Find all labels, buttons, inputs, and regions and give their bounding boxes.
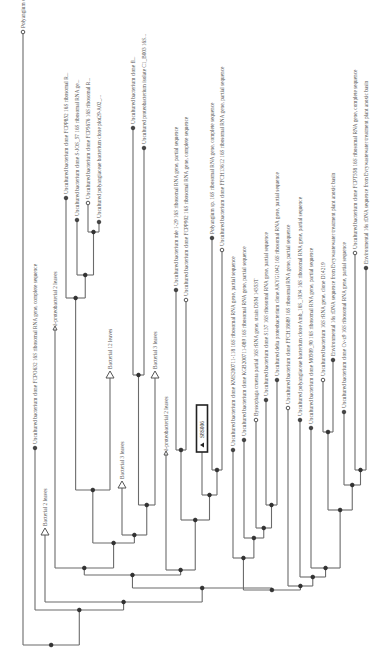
tree-leaf[interactable]: Uncultured bacterium mle 1-29 16S riboso… bbox=[173, 126, 179, 292]
tree-leaf[interactable]: Uncultured bacterium clone Cv-z9 16S rib… bbox=[341, 241, 347, 413]
leaf-label: Polyangium sp. 16S ribosomal RNA gene, c… bbox=[209, 102, 215, 234]
leaf-node-icon bbox=[242, 438, 246, 442]
leaf-node-icon bbox=[286, 406, 290, 410]
leaf-node-icon bbox=[64, 196, 68, 200]
leaf-node-icon bbox=[364, 266, 368, 270]
leaf-label: Uncultured bacterium clone FCPP852 16S r… bbox=[63, 72, 69, 194]
tree-leaf[interactable]: Uncultured bacterium clone FCPT558 16S r… bbox=[352, 69, 358, 255]
tree-node[interactable] bbox=[242, 556, 246, 560]
leaf-node-icon bbox=[184, 298, 188, 302]
tree-leaf[interactable]: Uncultured bacterium clone fl... bbox=[130, 56, 136, 129]
leaf-node-icon bbox=[231, 448, 235, 452]
tree-leaf[interactable]: Uncultured bacterium clone FCPP852 16S r… bbox=[63, 72, 69, 199]
leaf-label: Uncultured bacterium clone S-JOS_57 16S … bbox=[74, 79, 80, 216]
tree-node[interactable] bbox=[91, 488, 95, 492]
leaf-label: Uncultured bacterium 16S rRNA gene, clon… bbox=[320, 262, 326, 376]
tree-node[interactable] bbox=[200, 586, 204, 590]
leaf-node-icon bbox=[331, 358, 335, 362]
tree-node[interactable] bbox=[74, 296, 78, 300]
tree-leaf[interactable]: Uncultured bacterium clone FCPP902 16S r… bbox=[183, 116, 189, 302]
tree-node[interactable] bbox=[132, 533, 136, 537]
tree-node[interactable] bbox=[193, 518, 197, 522]
leaf-label: Uncultured proteobacterium isolate C1_B0… bbox=[141, 34, 147, 144]
tree-labels: Polyangium cellulosum strain NUST_6 16S … bbox=[20, 0, 369, 535]
tree-node[interactable] bbox=[270, 588, 274, 592]
tree-node[interactable] bbox=[326, 430, 330, 434]
tree-leaf[interactable]: Uncultured bacterium clone KMS200711-118… bbox=[230, 256, 236, 452]
tree-node[interactable] bbox=[215, 468, 219, 472]
collapsed-clade[interactable]: Bacterial 3 leaves bbox=[151, 331, 159, 378]
tree-node[interactable] bbox=[92, 230, 96, 234]
tree-leaf[interactable]: Uncultured bacterium clone FFCH18689 16S… bbox=[285, 224, 291, 410]
leaf-label: Uncultured bacterium clone M0509_90 16S … bbox=[308, 247, 314, 424]
tree-node[interactable] bbox=[350, 483, 354, 487]
tree-node[interactable] bbox=[179, 448, 183, 452]
collapsed-clade-triangle-icon bbox=[41, 528, 49, 535]
leaf-label: Environmental 16s rDNA sequence from Evr… bbox=[363, 80, 369, 264]
tree-node[interactable] bbox=[82, 566, 86, 570]
tree-leaf[interactable]: Polyangium cellulosum strain NUST_6 16S … bbox=[20, 0, 26, 34]
tree-node[interactable] bbox=[179, 568, 183, 572]
leaf-node-icon bbox=[131, 126, 135, 130]
tree-node[interactable] bbox=[311, 575, 315, 579]
collapsed-clade[interactable]: Bacterial 3 leaves bbox=[118, 441, 126, 488]
tree-leaf[interactable]: Uncultured bacterium clone FCPO632 16S r… bbox=[32, 263, 38, 450]
leaf-label: Byssophaga cruenta partial 16S rRNA gene… bbox=[253, 278, 259, 416]
tree-leaf[interactable]: Byssophaga cruenta partial 16S rRNA gene… bbox=[253, 278, 259, 422]
leaf-label: Uncultured bacterium clone Cv-z9 16S rib… bbox=[341, 241, 347, 408]
tree-node[interactable] bbox=[145, 503, 149, 507]
tree-leaf[interactable]: Uncultured bacterium clone S-JOS_57 16S … bbox=[74, 79, 80, 221]
tree-node[interactable] bbox=[137, 373, 141, 377]
tree-node[interactable] bbox=[208, 493, 212, 497]
leaf-label: Bacterial 2 leaves bbox=[42, 488, 48, 526]
leaf-label: Uncultured bacterium clone FFCH13612 16S… bbox=[219, 66, 225, 246]
leaf-label: δ-proteobacterial 2 leaves bbox=[163, 396, 169, 451]
leaf-label: Uncultured bacterium clone FCPO632 16S r… bbox=[32, 263, 38, 444]
tree-node[interactable] bbox=[131, 573, 135, 577]
leaf-label: Bacterial 12 leaves bbox=[107, 329, 113, 369]
tree-node[interactable] bbox=[122, 600, 126, 604]
query-label: S8S006 bbox=[199, 421, 205, 438]
tree-leaf[interactable]: Uncultured bacterium clone KGB200711-089… bbox=[241, 246, 247, 442]
tree-leaf[interactable]: Uncultured bacterium clone S137 16S ribo… bbox=[263, 231, 269, 401]
leaf-node-icon bbox=[142, 146, 146, 150]
leaf-label: Environmental 16s rDNA sequence from Evr… bbox=[330, 172, 336, 356]
leaf-node-icon bbox=[264, 398, 268, 402]
leaf-label: Uncultured polyangiaceae bacterium clone… bbox=[297, 196, 303, 416]
leaf-label: Uncultured bacterium clone S137 16S ribo… bbox=[263, 231, 269, 396]
leaf-node-icon bbox=[275, 378, 279, 382]
tree-node[interactable] bbox=[359, 468, 363, 472]
collapsed-clade[interactable]: Bacterial 2 leaves bbox=[41, 488, 49, 535]
tree-leaf[interactable]: Environmental 16s rDNA sequence from Evr… bbox=[330, 172, 336, 362]
tree-leaf[interactable]: Uncultured delta proteobacterium clone A… bbox=[274, 172, 280, 382]
tree-node[interactable] bbox=[262, 526, 266, 530]
phylogenetic-tree: Polyangium cellulosum strain NUST_6 16S … bbox=[0, 0, 382, 672]
tree-leaf[interactable]: Polyangium sp. 16S ribosomal RNA gene, c… bbox=[209, 102, 215, 240]
tree-leaf[interactable]: Uncultured bacterium clone FFCH13612 16S… bbox=[219, 66, 225, 252]
tree-leaf[interactable]: Uncultured polyangiaceae bacterium clone… bbox=[297, 196, 303, 421]
collapsed-clade[interactable]: Bacterial 12 leaves bbox=[106, 329, 114, 378]
tree-leaf[interactable]: Environmental 16s rDNA sequence from Evr… bbox=[363, 80, 369, 270]
tree-node[interactable] bbox=[77, 608, 81, 612]
tree-leaf[interactable]: Uncultured bacterium clone FCP5676 16S r… bbox=[85, 78, 91, 205]
leaf-node-icon bbox=[342, 410, 346, 414]
leaf-label: Uncultured bacterium clone fl... bbox=[130, 56, 136, 124]
tree-node[interactable] bbox=[49, 643, 53, 647]
leaf-node-icon bbox=[75, 218, 79, 222]
tree-node[interactable] bbox=[270, 503, 274, 507]
tree-node[interactable] bbox=[298, 584, 302, 588]
tree-leaf[interactable]: Uncultured proteobacterium isolate C1_B0… bbox=[141, 34, 147, 150]
query-sequence-leaf[interactable]: S8S006 bbox=[197, 405, 208, 452]
tree-leaf[interactable]: Uncultured bacterium clone M0509_90 16S … bbox=[308, 247, 314, 430]
tree-node[interactable] bbox=[338, 508, 342, 512]
tree-node[interactable] bbox=[324, 566, 328, 570]
tree-node[interactable] bbox=[83, 273, 87, 277]
tree-leaf[interactable]: Uncultured polyangiaceae bacterium clone… bbox=[96, 95, 102, 224]
leaf-label: Bacterial 3 leaves bbox=[119, 441, 125, 479]
collapsed-clade[interactable]: δ-proteobacterial 2 leaves bbox=[163, 396, 169, 455]
tree-leaf[interactable]: Uncultured bacterium 16S rRNA gene, clon… bbox=[320, 262, 326, 382]
leaf-node-icon bbox=[220, 248, 224, 252]
tree-node[interactable] bbox=[252, 536, 256, 540]
tree-node[interactable] bbox=[112, 541, 116, 545]
collapsed-clade[interactable]: δ-proteobacterial 2 leaves bbox=[52, 271, 58, 330]
